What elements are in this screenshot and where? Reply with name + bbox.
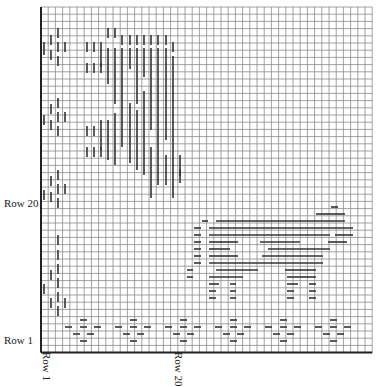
row-20-bottom-label: Row 20 bbox=[173, 352, 185, 387]
row-20-left-label: Row 20 bbox=[4, 197, 39, 209]
row-1-left-label: Row 1 bbox=[4, 334, 33, 346]
row-1-bottom-label: Row 1 bbox=[41, 352, 53, 381]
